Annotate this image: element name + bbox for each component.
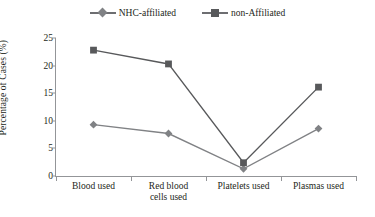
square-marker-icon xyxy=(90,47,97,54)
x-axis-label-line: Platelets used xyxy=(202,181,286,192)
chart-legend: NHC-affiliated non-Affiliated xyxy=(0,8,375,18)
square-marker-icon xyxy=(165,61,172,68)
square-marker-icon xyxy=(202,8,228,18)
legend-item-nhc-affiliated[interactable]: NHC-affiliated xyxy=(90,8,176,18)
square-marker-icon xyxy=(315,84,322,91)
diamond-marker-icon xyxy=(90,8,116,18)
legend-item-non-affiliated[interactable]: non-Affiliated xyxy=(202,8,285,18)
series-nhc-affiliated xyxy=(90,121,323,173)
diamond-marker-icon xyxy=(90,121,98,129)
x-axis-label-line: cells used xyxy=(127,192,211,203)
line-chart: NHC-affiliated non-Affiliated Percentage… xyxy=(0,0,375,217)
plot-area: 0510152025 xyxy=(56,38,356,176)
x-axis-label-line: Plasmas used xyxy=(277,181,361,192)
x-axis-label: Red bloodcells used xyxy=(127,181,211,203)
legend-label-nhc-affiliated: NHC-affiliated xyxy=(119,8,176,18)
series-non-affiliated xyxy=(90,47,322,166)
x-axis-label-line: Blood used xyxy=(52,181,136,192)
x-axis-label: Blood used xyxy=(52,181,136,192)
diamond-marker-icon xyxy=(165,130,173,138)
square-marker-icon xyxy=(240,159,247,166)
series-line xyxy=(94,125,319,169)
legend-label-non-affiliated: non-Affiliated xyxy=(231,8,285,18)
x-axis-label-line: Red blood xyxy=(127,181,211,192)
diamond-marker-icon xyxy=(315,125,323,133)
series-line xyxy=(94,50,319,163)
series-container xyxy=(56,38,356,176)
x-axis-label: Platelets used xyxy=(202,181,286,192)
y-axis-title: Percentage of Cases (%) xyxy=(0,40,8,135)
x-axis-label: Plasmas used xyxy=(277,181,361,192)
